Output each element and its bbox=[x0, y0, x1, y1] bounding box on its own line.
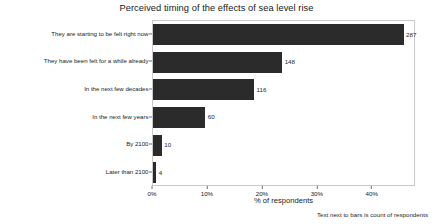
bar-row: 287 bbox=[153, 21, 414, 49]
bar-value-label: 10 bbox=[164, 142, 171, 148]
bar bbox=[153, 107, 205, 128]
bar-row: 60 bbox=[153, 104, 414, 132]
y-axis-tick: They have been felt for a while already bbox=[44, 48, 152, 76]
y-tick-label: In the next few years bbox=[92, 114, 152, 120]
chart-title: Perceived timing of the effects of sea l… bbox=[0, 3, 433, 13]
y-axis-tick: They are starting to be felt right now bbox=[51, 20, 152, 48]
y-axis-tick: In the next few years bbox=[92, 103, 152, 131]
x-axis-label: % of respondents bbox=[152, 196, 415, 205]
bars-layer: 287 148 116 60 10 4 bbox=[153, 21, 414, 185]
x-tick-mark-icon bbox=[206, 186, 207, 189]
y-axis-tick: By 2100 bbox=[126, 130, 152, 158]
y-axis-tick: Later than 2100 bbox=[106, 158, 152, 186]
bar-value-label: 60 bbox=[208, 114, 215, 120]
bar-row: 116 bbox=[153, 76, 414, 104]
bar-row: 4 bbox=[153, 159, 414, 187]
bar-value-label: 287 bbox=[406, 32, 416, 38]
bar-row: 148 bbox=[153, 49, 414, 77]
y-axis: They are starting to be felt right now T… bbox=[0, 20, 152, 186]
y-axis-tick: In the next few decades bbox=[84, 75, 152, 103]
bar-value-label: 4 bbox=[159, 170, 162, 176]
bar bbox=[153, 24, 404, 45]
bar-value-label: 148 bbox=[285, 59, 295, 65]
chart-note: Text next to bars is count of respondent… bbox=[317, 211, 428, 218]
bar-chart-figure: Perceived timing of the effects of sea l… bbox=[0, 0, 433, 224]
bar bbox=[153, 52, 282, 73]
y-tick-label: They are starting to be felt right now bbox=[51, 31, 152, 37]
bar bbox=[153, 135, 162, 156]
plot-area: 287 148 116 60 10 4 bbox=[152, 20, 415, 186]
bar-row: 10 bbox=[153, 131, 414, 159]
bar-value-label: 116 bbox=[257, 87, 267, 93]
x-tick-mark-icon bbox=[316, 186, 317, 189]
y-tick-label: In the next few decades bbox=[84, 86, 152, 92]
x-tick-mark-icon bbox=[261, 186, 262, 189]
y-tick-label: Later than 2100 bbox=[106, 169, 152, 175]
x-tick-mark-icon bbox=[371, 186, 372, 189]
y-tick-label: They have been felt for a while already bbox=[44, 58, 152, 64]
x-tick-mark-icon bbox=[151, 186, 152, 189]
bar bbox=[153, 79, 254, 100]
bar bbox=[153, 162, 156, 183]
